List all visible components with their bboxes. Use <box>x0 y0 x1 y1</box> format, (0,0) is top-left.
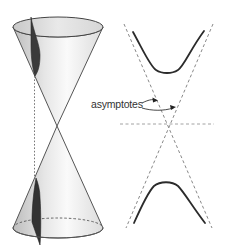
lower-cone <box>13 126 103 245</box>
upper-cone-body <box>13 27 103 126</box>
asymptote-left <box>124 24 212 228</box>
hyperbola-upper-branch <box>133 31 204 73</box>
hyperbola-lower-branch <box>134 182 205 223</box>
upper-cone <box>13 17 103 126</box>
asymptotes-label: asymptotes <box>91 98 143 110</box>
hyperbola-graph: asymptotes <box>91 24 214 228</box>
asymptote-arrow-lower <box>142 108 173 110</box>
arrowhead-lower-icon <box>170 105 176 110</box>
asymptote-right <box>126 24 213 228</box>
upper-cone-rim <box>13 17 103 37</box>
double-cone-hyperbola-diagram: asymptotes <box>0 0 229 252</box>
